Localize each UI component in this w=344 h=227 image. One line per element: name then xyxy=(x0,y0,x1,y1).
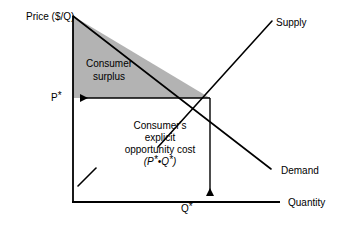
consumer-surplus-label-line-1: Consumer xyxy=(86,58,132,69)
formula-p: P xyxy=(147,156,154,167)
opportunity-cost-line-2: explicit xyxy=(145,132,176,143)
equilibrium-price-label: P* xyxy=(51,92,62,103)
opportunity-cost-line-1: Consumer's xyxy=(133,120,186,131)
consumer-surplus-label: Consumersurplus xyxy=(80,57,138,83)
equilibrium-quantity-label: Q* xyxy=(181,203,193,214)
opportunity-cost-line-3: opportunity cost xyxy=(125,144,196,155)
formula-p-star: * xyxy=(154,154,158,165)
opportunity-cost-formula: (P*•Q*) xyxy=(144,154,176,167)
demand-curve-label: Demand xyxy=(281,165,319,176)
supply-curve-label: Supply xyxy=(276,17,307,28)
x-axis-label: Quantity xyxy=(288,197,325,208)
consumer-surplus-figure: Price ($/Q) Quantity Supply Demand P* Q*… xyxy=(0,0,344,227)
equilibrium-price-letter: P xyxy=(51,92,58,103)
formula-q: Q xyxy=(161,156,169,167)
consumer-surplus-label-line-2: surplus xyxy=(93,71,125,82)
formula-q-star: * xyxy=(169,154,173,165)
equilibrium-quantity-letter: Q xyxy=(181,203,189,214)
diagonal-tick-mark-icon xyxy=(78,168,96,186)
equilibrium-quantity-star: * xyxy=(189,201,193,212)
formula-close-paren: ) xyxy=(173,156,176,167)
y-axis-label: Price ($/Q) xyxy=(26,11,74,22)
equilibrium-price-star: * xyxy=(58,90,62,101)
opportunity-cost-label: Consumer'sexplicitopportunity cost(P*•Q*… xyxy=(95,120,225,168)
figure-canvas xyxy=(0,0,344,227)
